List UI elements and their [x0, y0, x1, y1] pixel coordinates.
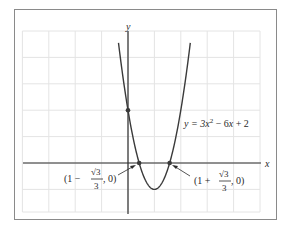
y-intercept-point: [126, 108, 131, 113]
svg-text:3: 3: [94, 181, 99, 191]
svg-text:, 0): , 0): [231, 175, 244, 187]
y-axis-label: y: [125, 21, 131, 32]
svg-text:(1 −: (1 −: [64, 173, 81, 185]
x-axis-label: x: [264, 158, 270, 169]
svg-text:(1 +: (1 +: [194, 175, 211, 187]
svg-text:√3: √3: [91, 167, 101, 177]
left-root-point: [137, 161, 142, 166]
right-root-point: [167, 161, 172, 166]
equation-label: y = 3x2 − 6x + 2: [183, 117, 249, 129]
arrowhead-icon: [130, 165, 136, 169]
svg-text:, 0): , 0): [103, 173, 116, 185]
svg-text:3: 3: [222, 183, 227, 193]
chart-canvas: x y y = 3x2 − 6x + 2 (1 − √3 3 , 0) (1 +…: [0, 0, 287, 232]
svg-text:√3: √3: [219, 169, 229, 179]
